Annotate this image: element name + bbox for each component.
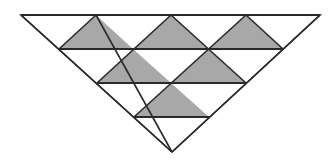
shaded-triangle [133,15,208,49]
shaded-triangles [59,15,283,117]
shaded-triangle [97,49,171,83]
shaded-triangle [134,83,209,117]
shaded-triangle [59,15,133,49]
shaded-triangle [171,49,246,83]
triangle-grid-diagram [0,0,336,167]
shaded-triangle [208,15,283,49]
